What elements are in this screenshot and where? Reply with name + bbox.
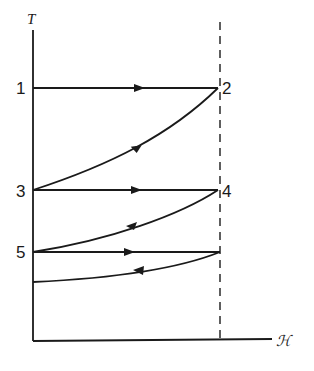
cycle-diagram: T ℋ 1 2 3 4 5 — [0, 0, 314, 371]
path-2-3 — [33, 88, 218, 190]
y-axis-label: T — [27, 11, 37, 27]
x-axis-label: ℋ — [276, 333, 293, 349]
x-axis — [33, 339, 272, 341]
arrow-right-icon — [131, 186, 142, 194]
point-label-5: 5 — [16, 243, 25, 262]
arrow-right-icon — [134, 84, 145, 92]
path-4-5 — [33, 190, 218, 252]
point-label-3: 3 — [16, 182, 25, 201]
point-label-4: 4 — [222, 182, 231, 201]
point-label-1: 1 — [16, 79, 25, 98]
arrow-right-icon — [124, 248, 135, 256]
path-5prime-lower — [33, 252, 220, 282]
point-label-2: 2 — [222, 79, 231, 98]
